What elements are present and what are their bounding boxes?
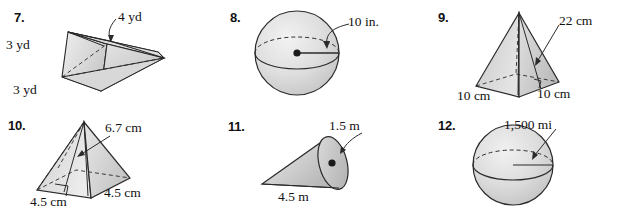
problem-11: 11.	[210, 108, 420, 214]
label-pyramid-base-right-10cm: 10 cm	[537, 86, 570, 102]
figure-cone-11	[210, 108, 420, 214]
problem-12: 12. 1,500 mi	[420, 108, 619, 214]
problem-7: 7.	[0, 0, 210, 108]
figure-sphere-8	[210, 0, 420, 108]
label-sphere-radius-1500mi: 1,500 mi	[504, 117, 552, 133]
label-cone-length-45m: 4.5 m	[278, 189, 309, 205]
problem-10: 10.	[0, 108, 210, 214]
label-pyramid-slant-22cm: 22 cm	[559, 13, 592, 29]
label-pyramid-edge-left-45cm: 4.5 cm	[30, 194, 67, 210]
problem-8: 8. 10 in.	[210, 0, 420, 108]
label-prism-edge-4yd: 4 yd	[118, 9, 142, 25]
label-pyramid-height-67cm: 6.7 cm	[105, 120, 142, 136]
problem-9: 9.	[420, 0, 619, 108]
label-pyramid-edge-right-45cm: 4.5 cm	[104, 185, 141, 201]
label-pyramid-base-left-10cm: 10 cm	[457, 88, 490, 104]
label-prism-base-3yd: 3 yd	[13, 82, 37, 98]
label-sphere-radius-10in: 10 in.	[348, 14, 379, 30]
label-cone-radius-15m: 1.5 m	[329, 118, 360, 134]
label-prism-height-3yd: 3 yd	[6, 37, 30, 53]
worksheet-page: 7.	[0, 0, 619, 214]
